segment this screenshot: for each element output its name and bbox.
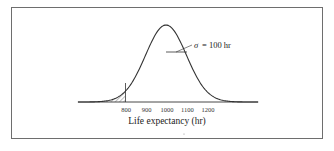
normal-distribution-chart: σ = 100 hr 800 900 1000 1100 1200 Life e… xyxy=(0,0,334,151)
normal-curve xyxy=(78,25,258,102)
sigma-symbol: σ xyxy=(194,40,199,50)
x-axis-label: Life expectancy (hr) xyxy=(128,116,206,127)
tick-label-1200: 1200 xyxy=(202,106,215,113)
tick-label-1100: 1100 xyxy=(181,106,194,113)
tick-label-1000: 1000 xyxy=(161,106,174,113)
tick-label-900: 900 xyxy=(142,106,152,113)
tick-label-800: 800 xyxy=(121,106,131,113)
scan-dot xyxy=(184,134,185,135)
sigma-value: = 100 hr xyxy=(202,40,231,50)
